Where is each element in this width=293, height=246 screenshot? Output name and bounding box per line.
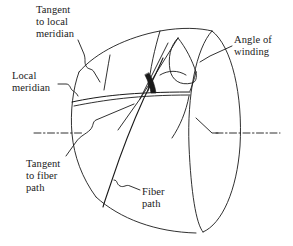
leader-fiber-path (114, 180, 140, 190)
label-tangent-to-local-meridian: Tangent to local meridian (36, 4, 74, 41)
dome-top-edge (79, 28, 212, 72)
label-local-meridian: Local meridian (12, 70, 50, 94)
label-tangent-to-fiber-path: Tangent to fiber path (26, 158, 60, 195)
polar-opening-ellipse-front (178, 38, 196, 72)
polar-boss-inner-curve (160, 71, 186, 75)
cylinder-end-ellipse-right (203, 31, 240, 232)
leader-angle-of-winding (200, 46, 232, 62)
label-fiber-path: Fiber path (142, 186, 165, 210)
tangent-to-local-meridian-line (140, 38, 178, 99)
surface-curve-upper-left (104, 55, 110, 90)
fiber-path-curve (103, 58, 163, 207)
centerline-connector-right (196, 118, 218, 133)
label-angle-of-winding: Angle of winding (234, 34, 272, 58)
local-meridian-band-lower (74, 95, 190, 106)
local-meridian-line (72, 92, 190, 102)
surface-curve-lower-right (172, 96, 189, 138)
diagram-canvas: Tangent to local meridian Local meridian… (0, 0, 293, 246)
leader-tangent-local-meridian (78, 40, 100, 82)
